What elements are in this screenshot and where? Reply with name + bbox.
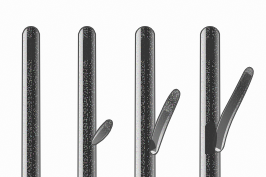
cactus-stages-svg [0, 0, 266, 177]
illustration-canvas: Cactus branching growth stages Four stip… [0, 0, 266, 177]
paper-grain [0, 0, 266, 177]
